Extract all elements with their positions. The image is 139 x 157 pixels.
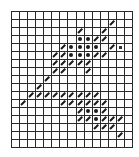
- grid-line-horizontal: [11, 11, 133, 12]
- diagonal-slash-icon: [59, 99, 67, 107]
- diagonal-slash-icon: [67, 99, 75, 107]
- diagonal-slash-icon: [92, 35, 100, 43]
- diagonal-slash-icon: [108, 19, 116, 27]
- diagonal-slash-icon: [76, 59, 84, 67]
- grid-line-vertical: [27, 11, 28, 148]
- diagonal-slash-icon: [84, 59, 92, 67]
- filled-dot-icon: [84, 107, 92, 115]
- grid-line-vertical: [19, 11, 20, 148]
- grid-line-vertical: [11, 11, 12, 148]
- diagonal-slash-icon: [84, 67, 92, 75]
- diagonal-slash-icon: [100, 115, 108, 123]
- diagonal-slash-icon: [19, 99, 27, 107]
- diagonal-slash-icon: [100, 35, 108, 43]
- diagonal-slash-icon: [59, 67, 67, 75]
- grid-line-vertical: [84, 11, 85, 148]
- filled-dot-icon: [92, 107, 100, 115]
- diagonal-slash-icon: [84, 91, 92, 99]
- diagonal-slash-icon: [108, 115, 116, 123]
- diagonal-slash-icon: [100, 51, 108, 59]
- diagonal-slash-icon: [35, 91, 43, 99]
- diagonal-slash-icon: [43, 91, 51, 99]
- grid-line-horizontal: [11, 147, 133, 148]
- diagonal-slash-icon: [116, 131, 124, 139]
- diagonal-slash-icon: [100, 107, 108, 115]
- grid-line-vertical: [51, 11, 52, 148]
- diagonal-slash-icon: [84, 99, 92, 107]
- diagonal-slash-icon: [76, 107, 84, 115]
- diagonal-slash-icon: [59, 91, 67, 99]
- filled-dot-icon: [76, 35, 84, 43]
- grid-line-horizontal: [11, 83, 133, 84]
- diagonal-slash-icon: [108, 43, 116, 51]
- grid-line-vertical: [67, 11, 68, 148]
- grid-line-vertical: [132, 11, 133, 148]
- diagonal-slash-icon: [51, 51, 59, 59]
- filled-dot-icon: [76, 51, 84, 59]
- diagonal-slash-icon: [76, 91, 84, 99]
- diagonal-slash-icon: [92, 51, 100, 59]
- filled-dot-icon: [84, 43, 92, 51]
- diagonal-slash-icon: [59, 51, 67, 59]
- diagonal-slash-icon: [43, 75, 51, 83]
- grid-line-horizontal: [11, 107, 133, 108]
- filled-dot-icon: [92, 115, 100, 123]
- diagonal-slash-icon: [92, 123, 100, 131]
- grid-line-vertical: [35, 11, 36, 148]
- diagonal-slash-icon: [35, 83, 43, 91]
- diagonal-slash-icon: [108, 123, 116, 131]
- diagonal-slash-icon: [100, 27, 108, 35]
- diagonal-slash-icon: [67, 91, 75, 99]
- diagonal-slash-icon: [76, 27, 84, 35]
- diagonal-slash-icon: [27, 91, 35, 99]
- grid-line-horizontal: [11, 35, 133, 36]
- grid-line-horizontal: [11, 67, 133, 68]
- grid-line-horizontal: [11, 139, 133, 140]
- filled-dot-icon: [67, 51, 75, 59]
- diagonal-slash-icon: [59, 59, 67, 67]
- small-square-icon: [116, 43, 124, 51]
- diagonal-slash-icon: [92, 99, 100, 107]
- filled-dot-icon: [84, 51, 92, 59]
- diagonal-slash-icon: [51, 59, 59, 67]
- grid-line-horizontal: [11, 27, 133, 28]
- diagonal-slash-icon: [100, 123, 108, 131]
- diagonal-slash-icon: [67, 59, 75, 67]
- diagonal-slash-icon: [92, 91, 100, 99]
- filled-dot-icon: [76, 43, 84, 51]
- filled-dot-icon: [92, 43, 100, 51]
- diagonal-slash-icon: [100, 99, 108, 107]
- diagonal-slash-icon: [76, 115, 84, 123]
- filled-dot-icon: [67, 43, 75, 51]
- grid-line-vertical: [124, 11, 125, 148]
- grid-line-horizontal: [11, 131, 133, 132]
- grid-line-vertical: [116, 11, 117, 148]
- diagonal-slash-icon: [59, 43, 67, 51]
- diagonal-slash-icon: [51, 67, 59, 75]
- diagonal-slash-icon: [84, 115, 92, 123]
- grid-line-horizontal: [11, 75, 133, 76]
- diagonal-slash-icon: [51, 91, 59, 99]
- diagonal-slash-icon: [116, 115, 124, 123]
- grid-line-vertical: [59, 11, 60, 148]
- diagonal-slash-icon: [76, 99, 84, 107]
- pattern-grid-chart: [11, 11, 132, 147]
- filled-dot-icon: [84, 35, 92, 43]
